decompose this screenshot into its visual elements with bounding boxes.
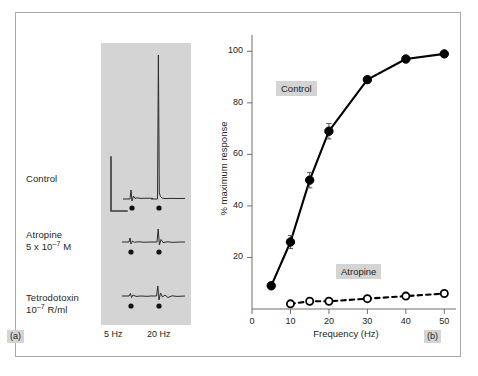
trace-recording-panel <box>101 43 191 325</box>
row-label-ttx-line2: 10–7 R/ml <box>26 304 79 316</box>
trace-ttx-5hz <box>122 294 151 298</box>
series-label-atropine: Atropine <box>336 264 381 279</box>
row-label-control: Control <box>26 173 57 185</box>
x-tick-label: 50 <box>434 316 454 326</box>
data-point-atropine <box>364 295 371 302</box>
row-label-atropine: Atropine 5 x 10–7 M <box>26 229 71 253</box>
row-label-atropine-line1: Atropine <box>26 229 71 241</box>
data-point-control <box>286 238 294 246</box>
panel-tag-a: (a) <box>7 330 24 343</box>
trace-freq-label-5hz: 5 Hz <box>104 329 123 339</box>
y-axis-title: % maximum response <box>218 104 229 234</box>
ttx-conc-exponent: –7 <box>37 303 45 310</box>
x-tick-label: 0 <box>242 316 262 326</box>
y-tick-label: 20 <box>219 251 243 261</box>
data-point-atropine <box>325 298 332 305</box>
data-point-control <box>363 75 371 83</box>
ttx-conc-base: 10 <box>26 304 37 315</box>
data-point-atropine <box>402 293 409 300</box>
data-point-control <box>440 50 448 58</box>
row-label-ttx-line1: Tetrodotoxin <box>26 292 79 304</box>
atropine-conc-base: 5 x 10 <box>26 241 52 252</box>
data-point-atropine <box>441 290 448 297</box>
trace-atropine-20hz <box>151 229 185 245</box>
x-tick-label: 20 <box>319 316 339 326</box>
trace-control-5hz <box>123 190 153 201</box>
stim-marker-atropine-20hz <box>156 249 161 254</box>
response-frequency-chart <box>206 13 461 353</box>
panel-a-traces: Control Atropine 5 x 10–7 M Tetrodotoxin… <box>16 13 206 353</box>
data-point-control <box>325 127 333 135</box>
stim-marker-ttx-20hz <box>156 303 161 308</box>
trace-ttx-20hz <box>151 286 185 300</box>
data-point-control <box>267 282 275 290</box>
atropine-conc-unit: M <box>60 241 71 252</box>
trace-atropine-5hz <box>122 238 151 244</box>
row-label-tetrodotoxin: Tetrodotoxin 10–7 R/ml <box>26 292 79 316</box>
x-tick-label: 30 <box>357 316 377 326</box>
stim-marker-atropine-5hz <box>128 249 133 254</box>
trace-waveforms-svg <box>101 43 191 325</box>
stim-marker-control-5hz <box>129 205 134 210</box>
x-axis-title: Frequency (Hz) <box>246 328 446 339</box>
stim-marker-control-20hz <box>156 205 161 210</box>
x-tick-label: 40 <box>396 316 416 326</box>
data-point-control <box>305 176 313 184</box>
trace-freq-label-20hz: 20 Hz <box>147 329 171 339</box>
ttx-conc-unit: R/ml <box>45 304 68 315</box>
panel-tag-b: (b) <box>424 330 441 343</box>
data-point-atropine <box>287 300 294 307</box>
y-tick-label: 100 <box>219 45 243 55</box>
panel-b-chart: 2040608010001020304050 % maximum respons… <box>206 13 461 353</box>
data-point-atropine <box>306 298 313 305</box>
trace-control-20hz <box>151 55 185 199</box>
calibration-scale-bar <box>111 157 127 211</box>
trace-frequency-labels: 5 Hz 20 Hz <box>101 329 191 343</box>
row-label-control-text: Control <box>26 173 57 184</box>
figure-container: Control Atropine 5 x 10–7 M Tetrodotoxin… <box>0 0 478 376</box>
x-tick-label: 10 <box>280 316 300 326</box>
stim-marker-ttx-5hz <box>128 303 133 308</box>
row-label-atropine-line2: 5 x 10–7 M <box>26 241 71 253</box>
data-point-control <box>402 55 410 63</box>
series-label-control: Control <box>276 81 317 96</box>
